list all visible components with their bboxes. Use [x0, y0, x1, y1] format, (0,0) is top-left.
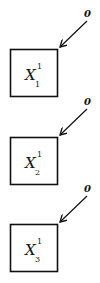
input-arrow-icon — [60, 196, 87, 222]
input-arrow-icon — [60, 21, 87, 47]
node-subscript: 1 — [35, 80, 40, 89]
input-label: 0 — [84, 96, 91, 107]
node-x3: X 1 3 0 — [11, 183, 92, 272]
input-label: 0 — [84, 8, 91, 19]
node-superscript: 1 — [37, 62, 42, 71]
node-subscript: 2 — [35, 168, 40, 177]
input-label: 0 — [84, 183, 91, 194]
input-arrow-icon — [60, 109, 87, 135]
diagram-canvas: X 1 1 0 X 1 2 0 X 1 3 0 — [0, 0, 100, 283]
node-subscript: 3 — [35, 255, 40, 264]
node-superscript: 1 — [37, 150, 42, 159]
node-x1: X 1 1 0 — [11, 8, 92, 97]
node-x2: X 1 2 0 — [11, 96, 92, 185]
node-superscript: 1 — [37, 237, 42, 246]
